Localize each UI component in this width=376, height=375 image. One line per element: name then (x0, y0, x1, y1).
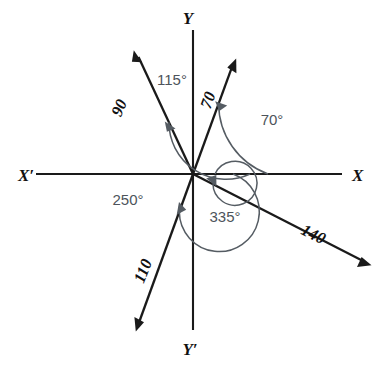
angle-diagram-figure: X′ X Y Y′ 70 90 110 140 70° 115° 250° 33… (0, 0, 376, 375)
ray-line-110 (139, 174, 193, 323)
arrow-head-ray-90 (132, 50, 142, 62)
y-positive-axis-label: Y (183, 9, 195, 28)
ray-label-110: 110 (130, 256, 157, 285)
ray-line-70 (193, 66, 232, 174)
angle-label-250: 250° (112, 191, 143, 208)
arc-path-335 (213, 161, 257, 205)
y-negative-axis-label: Y′ (182, 340, 197, 359)
angle-arcs-group (165, 101, 268, 251)
arrow-head-ray-70 (227, 59, 236, 74)
diagram-canvas: X′ X Y Y′ 70 90 110 140 70° 115° 250° 33… (0, 0, 376, 375)
x-negative-axis-label: X′ (17, 166, 34, 185)
ray-label-140: 140 (298, 220, 329, 248)
angle-label-70: 70° (261, 111, 284, 128)
angle-label-115: 115° (157, 71, 187, 88)
ray-label-90: 90 (107, 96, 131, 119)
x-positive-axis-label: X (351, 166, 364, 185)
axes-group (36, 30, 342, 330)
angle-label-335: 335° (209, 208, 240, 225)
rays-group (132, 50, 372, 331)
